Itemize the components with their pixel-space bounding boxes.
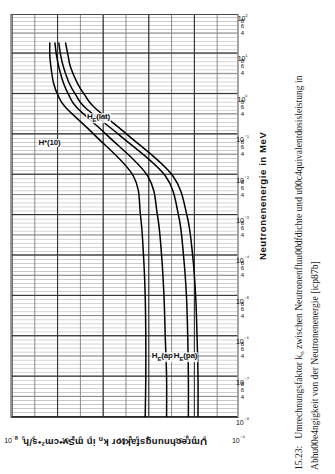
y-axis-title-rest: in mSv•cm²•s/h	[22, 437, 98, 448]
y-tick-decade: 10⁻⁶	[231, 436, 244, 444]
x-tick-decade: 10⁻⁴	[235, 256, 248, 264]
x-tick-minor: 4	[240, 273, 243, 279]
y-axis-title-main: Umrechnungsfaktor k	[103, 437, 207, 448]
x-axis-title: Neutronenenergie in MeV	[256, 132, 267, 260]
curve-label-h10: H*(10)	[37, 139, 61, 147]
figure-caption-number: 15.23:	[292, 446, 303, 470]
x-tick-minor: 6	[240, 63, 243, 69]
x-tick-minor: 4	[240, 111, 243, 117]
figure-caption-text: Umrechnungsfaktor kn zwischen Neutronenf…	[292, 76, 319, 470]
chart-plot-area: H*(10)HE(ap)HE(pa)HE(lat)	[10, 14, 238, 418]
x-tick-minor: 4	[240, 353, 243, 359]
curve-heap	[54, 43, 166, 417]
x-tick-decade: 10⁻⁸	[235, 418, 248, 426]
x-tick-minor: 6	[240, 185, 243, 191]
x-tick-minor: 4	[240, 313, 243, 319]
x-tick-decade: 10⁻⁶	[235, 337, 248, 345]
x-tick-decade: 10⁻³	[236, 216, 249, 224]
x-tick-minor: 6	[240, 144, 243, 150]
x-tick-decade: 10⁰	[237, 95, 247, 103]
caption-subscript: n	[298, 351, 306, 355]
y-axis-title: Umrechnungsfaktor kn in mSv•cm²•s/h	[26, 436, 206, 449]
x-tick-minor: 6	[240, 265, 243, 271]
x-tick-minor: 4	[240, 30, 243, 36]
curve-svg	[11, 15, 237, 417]
x-tick-decade: 10¹	[237, 54, 247, 62]
x-tick-minor: 6	[240, 387, 243, 393]
x-tick-decade: 10⁻⁵	[235, 297, 248, 305]
x-tick-minor: 6	[240, 346, 243, 352]
y-tick-decade: 10⁻²	[4, 436, 17, 444]
curve-label-hepa: HE(pa)	[172, 353, 197, 363]
x-tick-minor: 4	[240, 71, 243, 77]
curve-label-helat: HE(lat)	[85, 113, 110, 123]
x-tick-decade: 10²	[237, 14, 247, 22]
figure-rotator: H*(10)HE(ap)HE(pa)HE(lat) 10⁻⁸46810⁻⁷468…	[0, 0, 335, 474]
x-tick-minor: 4	[240, 151, 243, 157]
curve-label-heap: HE(ap)	[150, 353, 175, 363]
x-tick-minor: 4	[240, 394, 243, 400]
figure-caption: 15.23:Umrechnungsfaktor kn zwischen Neut…	[292, 4, 321, 470]
plot-block: H*(10)HE(ap)HE(pa)HE(lat) 10⁻⁸46810⁻⁷468…	[0, 0, 286, 474]
x-tick-decade: 10⁻⁷	[236, 378, 249, 386]
x-tick-decade: 10⁻¹	[236, 135, 249, 143]
x-tick-minor: 4	[240, 192, 243, 198]
x-tick-minor: 4	[240, 232, 243, 238]
curve-layer	[11, 15, 237, 417]
x-tick-decade: 10⁻²	[236, 176, 249, 184]
curve-h10	[49, 43, 145, 417]
